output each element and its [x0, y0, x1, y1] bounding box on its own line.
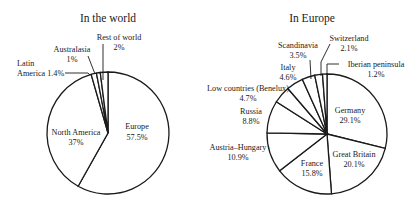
- label-austria-hungary-pct: 10.9%: [227, 153, 248, 162]
- leader-latin-america: [65, 73, 90, 75]
- label-austria-hungary-name: Austria–Hungary: [210, 143, 268, 152]
- label-france-name: France: [301, 159, 324, 168]
- label-rest-name: Rest of world: [97, 33, 142, 42]
- label-latin-line2: America 1.4%: [17, 69, 64, 78]
- label-benelux-pct: 4.7%: [239, 94, 256, 103]
- label-scandinavia-name: Scandinavia: [278, 41, 318, 50]
- label-europe-name: Europe: [125, 122, 149, 131]
- label-france-pct: 15.8%: [301, 169, 322, 178]
- label-switzerland-name: Switzerland: [329, 34, 368, 43]
- label-scandinavia-pct: 3.5%: [289, 51, 306, 60]
- label-russia-name: Russia: [240, 107, 262, 116]
- label-north-america-pct: 37%: [68, 138, 83, 147]
- label-iberian-name: Iberian peninsula: [348, 60, 405, 69]
- label-germany-name: Germany: [335, 106, 366, 115]
- label-gb-name: Great Britain: [333, 150, 376, 159]
- label-latin-line1: Latin: [17, 59, 34, 68]
- leader-australasia: [88, 56, 95, 74]
- label-europe-pct: 57.5%: [126, 133, 147, 142]
- label-australasia-name: Australasia: [54, 45, 91, 54]
- europe-title: In Europe: [289, 12, 335, 25]
- leader-iberian: [327, 64, 339, 75]
- label-italy-name: Italy: [280, 63, 296, 72]
- label-australasia-pct: 1%: [67, 55, 78, 64]
- label-switzerland-pct: 2.1%: [340, 44, 357, 53]
- label-italy-pct: 4.6%: [279, 73, 296, 82]
- label-russia-pct: 8.8%: [242, 117, 259, 126]
- label-north-america-name: North America: [52, 128, 101, 137]
- label-rest-pct: 2%: [114, 43, 125, 52]
- label-germany-pct: 29.1%: [339, 116, 360, 125]
- leader-switzerland: [321, 44, 330, 76]
- chart-canvas: In the world Europe 57.5% North America …: [0, 0, 419, 208]
- label-iberian-pct: 1.2%: [367, 70, 384, 79]
- world-title: In the world: [80, 12, 136, 24]
- label-benelux-name: Low countries (Benelux): [207, 84, 289, 93]
- label-gb-pct: 20.1%: [343, 160, 364, 169]
